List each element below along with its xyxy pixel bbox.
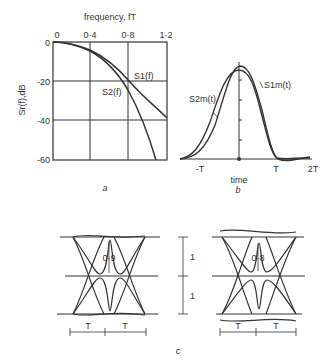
panel-c-left-eye: 0·9 T T [57, 235, 160, 336]
eye-trace [220, 319, 296, 321]
period-label: T [235, 321, 241, 331]
label-s1: S1(f) [134, 71, 154, 81]
eye-trace [220, 230, 296, 233]
ytick-0: 0 [45, 38, 50, 48]
xtick-minus-t: -T [196, 164, 205, 174]
period-label: T [122, 321, 128, 331]
eye-opening-right: 0·8 [251, 253, 264, 263]
caption-b: b [235, 185, 240, 195]
label-s1m: S1m(t) [264, 80, 291, 90]
caption-a: a [102, 183, 107, 193]
figure: frequency, fT 0 0·4 0·8 1·2 0 -20 -40 -6… [0, 0, 330, 364]
panel-b: S1m(t) S2m(t) -T T 2T time b [180, 62, 319, 195]
ytick-60: -60 [37, 155, 50, 165]
panel-a: frequency, fT 0 0·4 0·8 1·2 0 -20 -40 -6… [17, 12, 173, 193]
panel-c-right-eye: 0·8 T T [212, 230, 305, 336]
origin-dot [237, 157, 241, 161]
xlabel-a: frequency, fT [84, 12, 136, 22]
xtick-2t: 2T [308, 164, 319, 174]
ylabel-a: Sr(f),dB [17, 84, 27, 115]
leader-s2m [213, 112, 218, 118]
label-s2m: S2m(t) [189, 94, 216, 104]
eye-opening-left: 0·9 [102, 253, 115, 263]
level-upper: 1 [190, 252, 195, 262]
eye-lower [73, 278, 145, 314]
xtick-12: 1·2 [159, 30, 172, 40]
xtick-0: 0 [54, 30, 59, 40]
xlabel-b: time [230, 175, 247, 185]
xtick-t: T [273, 164, 279, 174]
curve-s2 [53, 42, 156, 160]
period-label: T [273, 321, 279, 331]
xtick-08: 0·8 [121, 30, 134, 40]
level-lower: 1 [190, 291, 195, 301]
leader-s1m [260, 82, 263, 88]
period-label: T [85, 321, 91, 331]
eye-lower [222, 280, 296, 314]
ytick-40: -40 [37, 116, 50, 126]
level-scale: 1 1 [178, 237, 195, 314]
xtick-04: 0·4 [83, 30, 96, 40]
caption-c: c [176, 346, 181, 356]
ytick-20: -20 [37, 77, 50, 87]
label-s2: S2(f) [102, 87, 122, 97]
